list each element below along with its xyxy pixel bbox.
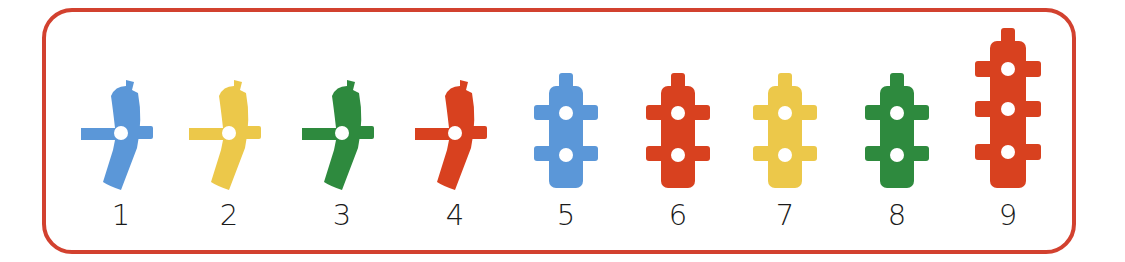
piece-label: 3 [292,198,392,232]
piece-label: 2 [179,198,279,232]
piece-label: 8 [847,198,947,232]
piece-label: 1 [71,198,171,232]
piece-label: 5 [516,198,616,232]
piece-label: 9 [958,198,1058,232]
piece-label: 7 [735,198,835,232]
piece-label: 4 [405,198,505,232]
piece-label: 6 [628,198,728,232]
